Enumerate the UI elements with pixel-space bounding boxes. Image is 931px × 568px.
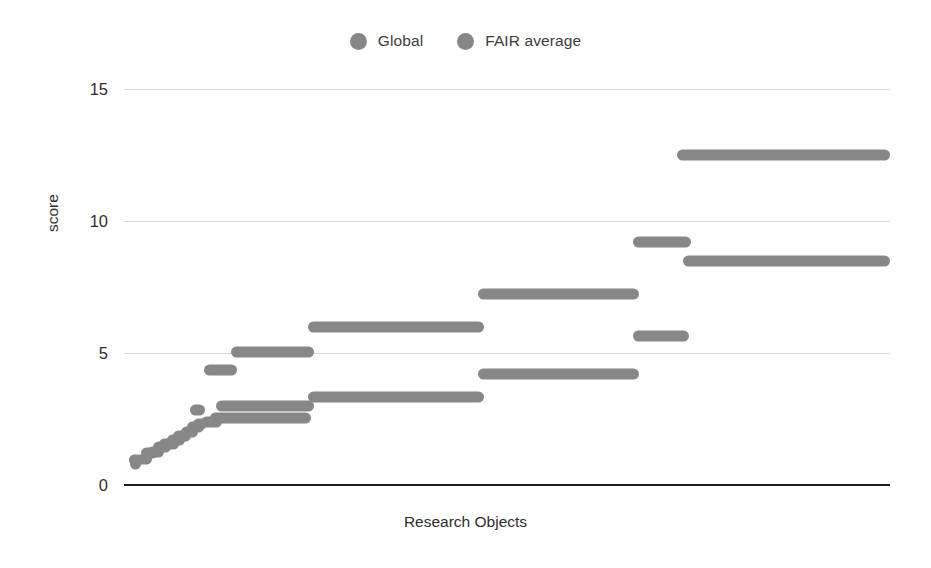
legend-marker-circle-icon <box>457 33 474 50</box>
data-mark <box>193 419 207 430</box>
legend-item-global[interactable]: Global <box>350 32 423 50</box>
legend-marker-circle-icon <box>350 33 367 50</box>
chart-figure: Global FAIR average 051015 score Researc… <box>0 0 931 568</box>
chart-legend: Global FAIR average <box>0 24 931 58</box>
data-mark <box>216 400 314 411</box>
data-mark <box>478 288 639 299</box>
data-mark <box>633 237 691 248</box>
y-tick-label: 15 <box>90 80 108 99</box>
data-mark <box>204 365 238 376</box>
gridline <box>124 89 890 90</box>
x-axis-title: Research Objects <box>0 513 931 531</box>
data-mark <box>633 330 690 341</box>
data-mark <box>308 391 484 402</box>
x-axis-baseline <box>124 484 890 486</box>
gridline <box>124 221 890 222</box>
data-mark <box>210 412 311 423</box>
y-tick-label: 10 <box>90 212 108 231</box>
data-mark <box>190 404 205 415</box>
legend-label-global: Global <box>378 32 423 50</box>
legend-label-fair-average: FAIR average <box>485 32 581 50</box>
data-mark <box>677 150 890 161</box>
y-axis-tick-labels: 051015 <box>0 60 118 485</box>
y-tick-label: 0 <box>99 476 108 495</box>
y-tick-label: 5 <box>99 344 108 363</box>
data-mark <box>308 321 484 332</box>
data-mark <box>231 346 314 357</box>
y-axis-title: score <box>44 194 62 232</box>
data-mark <box>683 255 890 266</box>
data-mark <box>478 369 639 380</box>
legend-item-fair-average[interactable]: FAIR average <box>457 32 581 50</box>
plot-area <box>124 60 890 485</box>
